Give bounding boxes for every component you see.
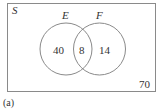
universe-label: S: [12, 4, 18, 16]
set-f-only-count: 14: [99, 44, 111, 56]
figure-caption: (a): [3, 97, 14, 109]
venn-diagram: S E F 40 8 14 70 (a): [0, 0, 158, 112]
intersection-count: 8: [79, 44, 85, 56]
outside-count: 70: [139, 78, 151, 90]
set-f-label: F: [95, 9, 103, 21]
set-e-only-count: 40: [53, 44, 65, 56]
set-e-label: E: [61, 9, 69, 21]
